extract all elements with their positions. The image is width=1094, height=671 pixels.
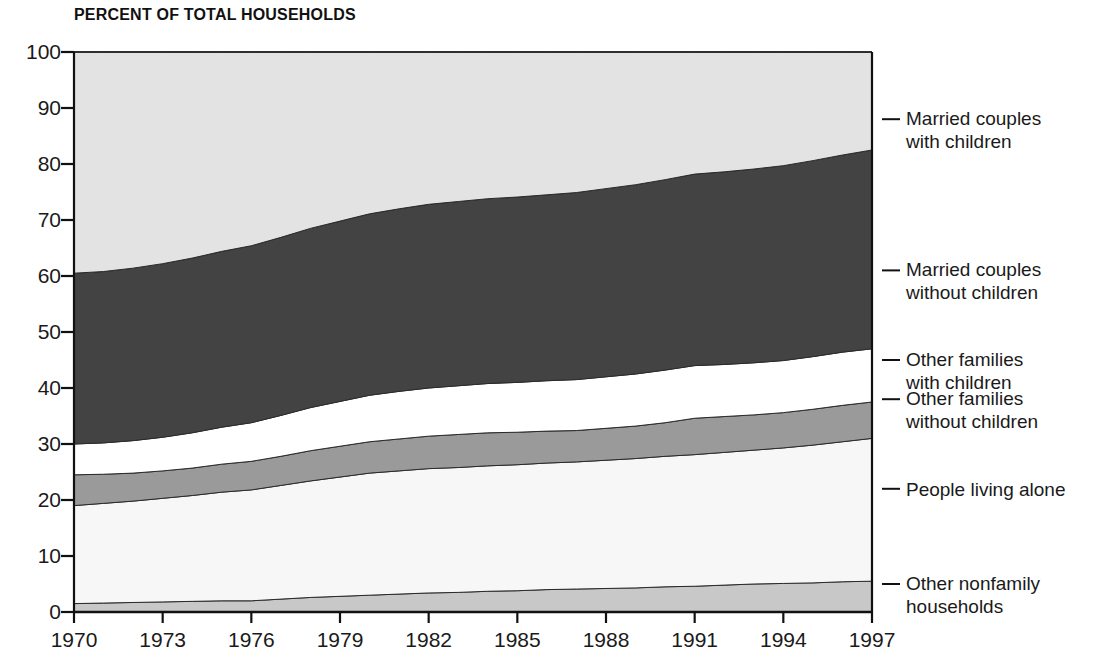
- x-tick-label: 1994: [748, 629, 818, 650]
- y-tick-label: 40: [9, 377, 61, 398]
- x-tick-label: 1991: [660, 629, 730, 650]
- x-tick-label: 1985: [482, 629, 552, 650]
- x-tick-label: 1979: [305, 629, 375, 650]
- y-tick-label: 70: [9, 209, 61, 230]
- x-tick-label: 1982: [394, 629, 464, 650]
- y-tick-label: 50: [9, 321, 61, 342]
- y-tick-label: 0: [9, 601, 61, 622]
- x-tick-label: 1997: [837, 629, 907, 650]
- legend-label: Other families without children: [906, 387, 1038, 433]
- legend-label: Married couples with children: [906, 107, 1041, 153]
- y-tick-label: 80: [9, 153, 61, 174]
- x-tick-label: 1976: [216, 629, 286, 650]
- area-bands: [74, 52, 872, 612]
- x-tick-label: 1970: [39, 629, 109, 650]
- y-tick-label: 30: [9, 433, 61, 454]
- x-tick-label: 1988: [571, 629, 641, 650]
- legend-leader-lines: [882, 119, 900, 584]
- chart-figure: PERCENT OF TOTAL HOUSEHOLDS 010203040506…: [0, 0, 1094, 671]
- stacked-area-plot: [0, 0, 1094, 671]
- y-tick-label: 20: [9, 489, 61, 510]
- y-tick-label: 10: [9, 545, 61, 566]
- legend-label: Married couples without children: [906, 258, 1041, 304]
- y-tick-label: 90: [9, 97, 61, 118]
- legend-label: People living alone: [906, 478, 1066, 501]
- y-tick-label: 100: [9, 41, 61, 62]
- x-tick-label: 1973: [128, 629, 198, 650]
- y-tick-label: 60: [9, 265, 61, 286]
- legend-label: Other nonfamily households: [906, 572, 1040, 618]
